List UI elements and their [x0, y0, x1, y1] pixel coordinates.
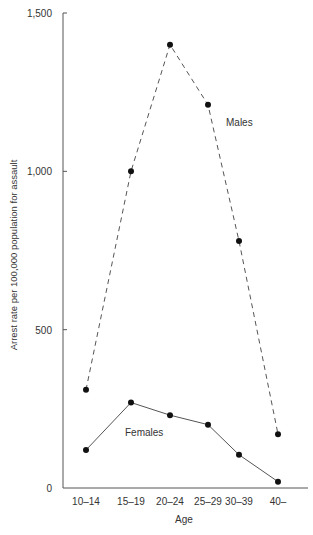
y-ticks: 05001,0001,500: [27, 8, 67, 494]
y-tick-label: 500: [35, 325, 52, 336]
males-series-label: Males: [226, 117, 253, 128]
data-point: [236, 452, 242, 458]
data-point: [275, 431, 281, 437]
females-line: [86, 403, 278, 482]
females-series-label: Females: [125, 427, 163, 438]
x-tick-label: 10–14: [72, 496, 100, 507]
x-tick-label: 30–39: [225, 496, 253, 507]
y-tick-label: 0: [46, 483, 52, 494]
line-chart: 05001,0001,500 10–1415–1920–2425–2930–39…: [0, 0, 313, 535]
data-point: [83, 447, 89, 453]
data-point: [128, 168, 134, 174]
data-point: [275, 479, 281, 485]
data-point: [167, 42, 173, 48]
y-tick-label: 1,000: [27, 166, 52, 177]
axes: [63, 13, 308, 488]
x-tick-label: 25–29: [194, 496, 222, 507]
males-line: [86, 45, 278, 435]
y-tick-label: 1,500: [27, 8, 52, 19]
x-tick-label: 15–19: [117, 496, 145, 507]
data-point: [167, 412, 173, 418]
data-point: [128, 400, 134, 406]
data-point: [236, 238, 242, 244]
x-axis-label: Age: [175, 514, 193, 525]
x-ticks: 10–1415–1920–2425–2930–3940–: [72, 496, 287, 507]
y-axis-label: Arrest rate per 100,000 population for a…: [8, 159, 19, 350]
x-tick-label: 20–24: [156, 496, 184, 507]
x-tick-label: 40–: [270, 496, 287, 507]
series: [83, 42, 281, 485]
data-point: [205, 422, 211, 428]
data-point: [83, 387, 89, 393]
data-point: [205, 102, 211, 108]
